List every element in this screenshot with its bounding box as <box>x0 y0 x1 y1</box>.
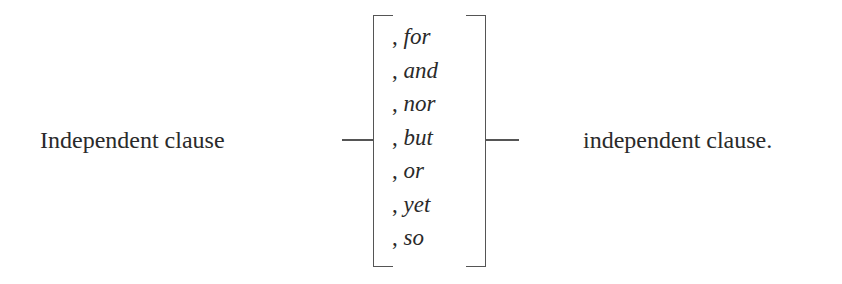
left-connector-line <box>342 139 373 141</box>
conjunction-and: , and <box>392 56 438 90</box>
left-independent-clause: Independent clause <box>40 128 225 152</box>
right-bracket <box>466 15 486 267</box>
right-independent-clause: independent clause. <box>583 128 772 152</box>
conjunction-so: , so <box>392 223 438 257</box>
conjunction-for: , for <box>392 22 438 56</box>
left-bracket <box>373 15 393 267</box>
right-connector-line <box>486 139 519 141</box>
conjunction-but: , but <box>392 123 438 157</box>
conjunction-nor: , nor <box>392 89 438 123</box>
conjunction-list: , for , and , nor , but , or , yet , so <box>392 22 438 257</box>
conjunction-yet: , yet <box>392 190 438 224</box>
conjunction-or: , or <box>392 156 438 190</box>
